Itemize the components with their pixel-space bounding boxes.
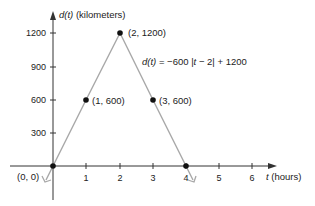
x-axis xyxy=(10,163,277,169)
equation-label: d(t) = −600 |t − 2| + 1200 xyxy=(142,56,247,67)
point-label-2-1200: (2, 1200) xyxy=(128,27,166,38)
point-4-0 xyxy=(183,163,189,169)
y-tick-labels: 300 600 900 1200 xyxy=(26,28,46,138)
y-tick-label: 1200 xyxy=(26,28,46,38)
point-origin xyxy=(50,163,56,169)
x-axis-label: t (hours) xyxy=(266,171,301,182)
x-tick-label: 1 xyxy=(83,173,88,183)
point-1-600 xyxy=(83,97,89,103)
y-tick-label: 600 xyxy=(31,95,46,105)
y-tick-label: 300 xyxy=(31,128,46,138)
point-3-600 xyxy=(150,97,156,103)
chart: 1 2 3 4 5 6 300 600 900 1200 (0, 0) (1, … xyxy=(0,0,315,206)
x-tick-label: 4 xyxy=(183,173,188,183)
x-tick-label: 5 xyxy=(216,173,221,183)
y-axis-label: d(t) (kilometers) xyxy=(59,9,126,20)
point-label-origin: (0, 0) xyxy=(17,171,39,182)
x-tick-labels: 1 2 3 4 5 6 xyxy=(83,173,254,183)
x-tick-label: 6 xyxy=(249,173,254,183)
y-tick-label: 900 xyxy=(31,62,46,72)
point-2-1200 xyxy=(117,30,123,36)
x-tick-label: 3 xyxy=(150,173,155,183)
x-axis-arrow-icon xyxy=(268,163,277,169)
point-label-3-600: (3, 600) xyxy=(159,95,192,106)
point-label-1-600: (1, 600) xyxy=(92,95,125,106)
y-axis-arrow-icon xyxy=(50,11,56,20)
x-tick-label: 2 xyxy=(117,173,122,183)
